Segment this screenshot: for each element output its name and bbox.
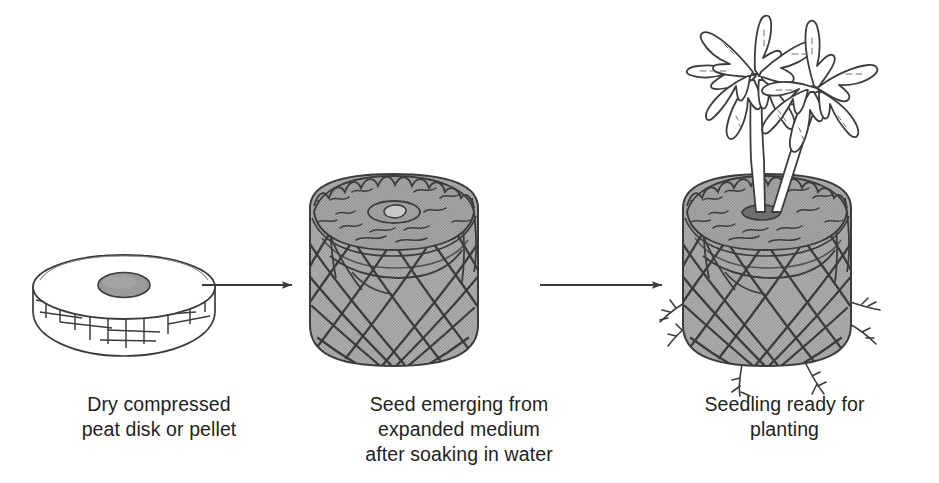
emerging-seed xyxy=(384,205,406,218)
disk-center-hole-highlight xyxy=(103,275,137,289)
peat-pellet-figure: Dry compressed peat disk or pellet Seed … xyxy=(0,0,939,483)
leaf xyxy=(805,21,834,88)
panel-2-expanded-pellet xyxy=(300,174,486,380)
caption-seedling: Seedling ready for planting xyxy=(630,392,939,442)
caption-expanded-pellet: Seed emerging from expanded medium after… xyxy=(300,392,618,467)
caption-dry-peat-disk: Dry compressed peat disk or pellet xyxy=(0,392,318,442)
panel-1-dry-peat-disk xyxy=(33,255,215,356)
panel-3-seedling-in-pellet xyxy=(660,16,880,396)
